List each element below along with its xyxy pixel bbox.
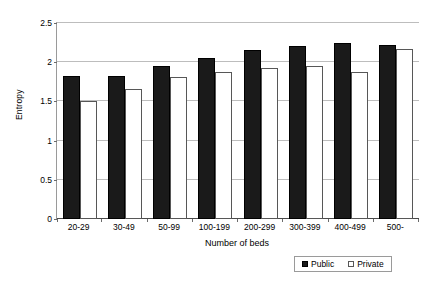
bar-group: [193, 23, 238, 219]
x-axis-tick-label: 500-: [373, 222, 418, 232]
bars-layer: [57, 23, 419, 219]
bar-public-100-199: [198, 58, 215, 219]
bar-public-200-299: [244, 50, 261, 219]
entropy-by-bed-count-chart: Entropy 00.511.522.5 20-2930-4950-99100-…: [0, 0, 433, 282]
bar-public-30-49: [108, 76, 125, 219]
bar-group: [57, 23, 102, 219]
bar-public-50-99: [153, 66, 170, 219]
x-axis-tick-label: 400-499: [328, 222, 373, 232]
legend: Public Private: [294, 256, 392, 272]
bar-group: [102, 23, 147, 219]
y-axis-tick-label: 2.5: [40, 18, 52, 28]
legend-item-private: Private: [348, 259, 383, 269]
x-axis-tick-label: 20-29: [56, 222, 101, 232]
bar-private-100-199: [215, 72, 232, 219]
x-axis-tick-label: 30-49: [101, 222, 146, 232]
plot-area: 00.511.522.5: [56, 22, 419, 219]
legend-label-private: Private: [357, 259, 383, 269]
bar-private-50-99: [170, 77, 187, 219]
legend-swatch-public-icon: [302, 261, 308, 267]
bar-private-20-29: [80, 101, 97, 219]
x-axis-tick-label: 50-99: [147, 222, 192, 232]
x-axis-tick-label: 100-199: [192, 222, 237, 232]
bar-public-20-29: [63, 76, 80, 219]
y-axis-title: Entropy: [2, 80, 12, 94]
bar-public-300-399: [289, 46, 306, 219]
y-axis-tick-label: 1: [47, 136, 52, 146]
y-axis-tick-label: 0.5: [40, 175, 52, 185]
bar-public-500-: [379, 45, 396, 219]
x-axis-tick-mark: [418, 219, 419, 222]
bar-group: [374, 23, 419, 219]
y-axis-tick-label: 1.5: [40, 96, 52, 106]
bar-group: [283, 23, 328, 219]
y-axis-tick-label: 2: [47, 57, 52, 67]
bar-private-200-299: [261, 68, 278, 219]
legend-item-public: Public: [302, 259, 334, 269]
bar-private-500-: [396, 49, 413, 219]
legend-swatch-private-icon: [348, 261, 354, 267]
bar-group: [148, 23, 193, 219]
bar-private-30-49: [125, 89, 142, 219]
y-axis-title-label: Entropy: [14, 106, 24, 120]
bar-group: [329, 23, 374, 219]
y-axis-tick-label: 0: [47, 214, 52, 224]
x-axis-title: Number of beds: [56, 238, 418, 248]
x-axis-tick-label: 200-299: [237, 222, 282, 232]
legend-label-public: Public: [311, 259, 334, 269]
x-axis-tick-labels: 20-2930-4950-99100-199200-299300-399400-…: [56, 222, 418, 232]
bar-public-400-499: [334, 43, 351, 219]
bar-private-400-499: [351, 72, 368, 219]
bar-group: [238, 23, 283, 219]
x-axis-tick-label: 300-399: [282, 222, 327, 232]
bar-private-300-399: [306, 66, 323, 219]
